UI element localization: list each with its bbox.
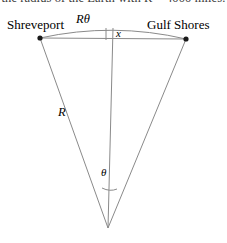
sector-diagram [0,0,227,243]
label-sagitta-x: x [116,28,121,39]
label-gulf-shores: Gulf Shores [147,18,209,31]
shreveport-point [37,35,42,40]
left-radius-line [40,38,108,228]
label-shreveport: Shreveport [7,18,64,31]
center-line [108,28,113,228]
right-radius-line [108,39,186,228]
label-radius-r: R [58,106,66,119]
gulf-shores-point [183,36,188,41]
angle-arc [102,188,117,190]
figure-canvas: the radius of the Earth with R = 4000 mi… [0,0,227,243]
label-arc-length: Rθ [76,13,90,26]
label-angle-theta: θ [101,167,106,178]
